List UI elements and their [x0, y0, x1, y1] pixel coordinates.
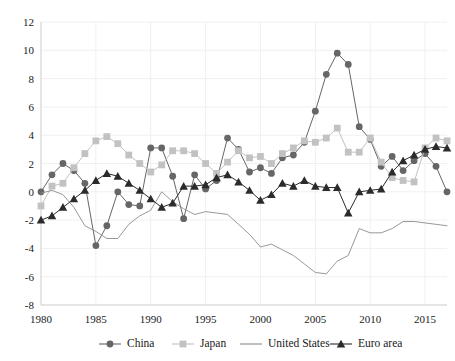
data-point-marker: [433, 163, 440, 170]
series-line: [41, 53, 447, 245]
x-axis-tick-labels: 19801985199019952000200520102015: [30, 313, 437, 325]
data-point-marker: [157, 203, 166, 211]
y-axis-tick-label: -6: [25, 271, 35, 283]
data-point-marker: [191, 171, 198, 178]
y-axis-tick-label: -8: [25, 299, 35, 311]
data-point-marker: [158, 145, 165, 152]
chart-legend: ChinaJapanUnited StatesEuro area: [99, 337, 402, 350]
series-line: [41, 190, 447, 273]
series-japan: [38, 125, 451, 210]
data-point-marker: [125, 201, 132, 208]
data-point-marker: [300, 176, 309, 184]
data-point-marker: [290, 145, 297, 152]
data-point-marker: [367, 135, 374, 142]
y-axis-tick-label: -2: [25, 214, 34, 226]
data-point-marker: [257, 164, 264, 171]
chart-container: 121086420-2-4-6-8 1980198519901995200020…: [0, 0, 455, 361]
data-point-marker: [444, 137, 451, 144]
data-point-marker: [60, 160, 67, 167]
x-axis-tick-label: 2000: [249, 313, 272, 325]
data-point-marker: [411, 178, 418, 185]
data-point-marker: [180, 215, 187, 222]
series-china: [38, 50, 451, 249]
data-point-marker: [103, 222, 110, 229]
data-point-marker: [147, 169, 154, 176]
legend-marker-swatch: [107, 341, 114, 348]
grid-lines: [41, 22, 447, 305]
x-axis-tick-label: 1990: [140, 313, 163, 325]
legend-label: Euro area: [358, 337, 402, 349]
data-point-marker: [345, 149, 352, 156]
data-point-marker: [400, 167, 407, 174]
x-axis-tick-label: 1995: [195, 313, 218, 325]
data-point-marker: [103, 133, 110, 140]
data-point-marker: [323, 135, 330, 142]
data-point-marker: [168, 199, 177, 207]
data-point-marker: [38, 203, 45, 210]
series-line: [41, 147, 447, 221]
data-point-marker: [191, 150, 198, 157]
data-point-marker: [81, 180, 88, 187]
data-point-marker: [114, 188, 121, 195]
data-point-marker: [59, 203, 68, 211]
data-point-marker: [378, 159, 385, 166]
data-point-marker: [334, 50, 341, 57]
data-point-marker: [103, 169, 112, 177]
data-point-marker: [136, 160, 143, 167]
data-point-marker: [202, 160, 209, 167]
legend-label: United States: [268, 337, 330, 349]
x-axis-tick-label: 2010: [359, 313, 382, 325]
data-point-marker: [334, 125, 341, 132]
data-point-marker: [432, 142, 441, 150]
data-point-marker: [290, 152, 297, 159]
data-point-marker: [234, 178, 243, 186]
data-point-marker: [223, 171, 232, 179]
y-axis-tick-label: 0: [29, 186, 35, 198]
legend-item-euro-area[interactable]: Euro area: [330, 337, 402, 349]
y-axis-tick-label: 10: [23, 44, 35, 56]
legend-item-japan[interactable]: Japan: [172, 337, 226, 350]
data-point-marker: [92, 137, 99, 144]
y-axis-tick-label: 6: [29, 101, 35, 113]
legend-item-united-states[interactable]: United States: [240, 337, 330, 349]
data-point-marker: [49, 171, 56, 178]
data-point-marker: [146, 195, 155, 203]
data-point-marker: [81, 150, 88, 157]
data-point-marker: [224, 159, 231, 166]
data-point-marker: [389, 153, 396, 160]
data-point-marker: [344, 209, 353, 217]
legend-marker-swatch: [180, 341, 187, 348]
data-point-marker: [400, 177, 407, 184]
data-point-marker: [311, 182, 320, 190]
data-point-marker: [180, 147, 187, 154]
data-point-marker: [399, 156, 408, 164]
data-point-marker: [356, 123, 363, 130]
data-point-marker: [246, 154, 253, 161]
legend-item-china[interactable]: China: [99, 337, 154, 349]
x-axis-tick-label: 2005: [304, 313, 327, 325]
data-point-marker: [169, 173, 176, 180]
data-series-layer: [37, 50, 452, 274]
data-point-marker: [92, 242, 99, 249]
data-point-marker: [38, 188, 45, 195]
y-axis-tick-label: 4: [29, 129, 35, 141]
data-point-marker: [345, 61, 352, 68]
data-point-marker: [158, 162, 165, 169]
x-axis-tick-label: 2015: [414, 313, 437, 325]
data-point-marker: [268, 170, 275, 177]
data-point-marker: [410, 151, 419, 159]
data-point-marker: [268, 160, 275, 167]
legend-label: China: [127, 337, 154, 349]
legend-label: Japan: [200, 337, 226, 350]
data-point-marker: [147, 145, 154, 152]
data-point-marker: [377, 185, 386, 193]
data-point-marker: [235, 147, 242, 154]
x-axis-tick-label: 1985: [85, 313, 108, 325]
data-point-marker: [224, 135, 231, 142]
data-point-marker: [136, 203, 143, 210]
data-point-marker: [278, 179, 287, 187]
x-axis-tick-label: 1980: [30, 313, 53, 325]
data-point-marker: [48, 212, 57, 220]
data-point-marker: [92, 176, 101, 184]
y-axis-tick-label: 8: [29, 73, 35, 85]
